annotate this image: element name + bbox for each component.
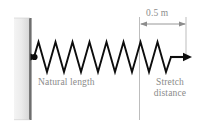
arrow-left-icon: [140, 21, 147, 26]
diagram-canvas: [0, 0, 202, 128]
anchor-dot-icon: [31, 54, 37, 60]
wall-support: [14, 18, 32, 120]
displacement-arrow: [170, 53, 192, 61]
dimension-value-label: 0.5 m: [146, 8, 168, 19]
natural-length-label: Natural length: [38, 77, 95, 88]
spring-stretch-diagram: 0.5 m Natural length Stretch distance: [0, 0, 202, 128]
wall-edge: [29, 18, 32, 120]
wall-face: [14, 18, 30, 120]
stretch-distance-line-2: distance: [154, 88, 186, 98]
displacement-arrowhead-icon: [183, 53, 192, 61]
stretch-distance-label: Stretch distance: [145, 77, 195, 98]
arrow-right-icon: [179, 21, 186, 26]
spring-anchor-point: [31, 54, 38, 61]
spring-coil: [34, 42, 171, 72]
dimension-line-group: [140, 21, 186, 26]
stretch-distance-line-1: Stretch: [156, 77, 184, 87]
spring-zigzag-path: [34, 42, 171, 72]
